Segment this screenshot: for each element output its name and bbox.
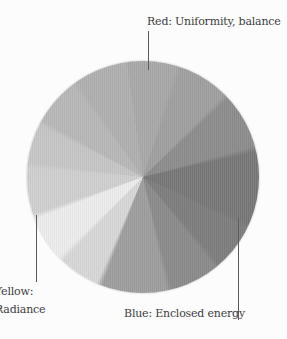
annotation-yellow-label: Yellow: Radiance [0, 283, 45, 319]
annotation-blue-leader-line [238, 218, 239, 320]
annotation-yellow-label-line2: Radiance [0, 301, 45, 319]
annotation-red-label: Red: Uniformity, balance [147, 14, 281, 29]
annotation-yellow-label-line1: Yellow: [0, 283, 45, 301]
annotation-red-leader-line [148, 31, 149, 70]
annotation-yellow-leader-line [36, 215, 37, 282]
color-wheel-pie [27, 61, 259, 293]
figure-color-wheel: Red: Uniformity, balance Yellow: Radianc… [0, 0, 287, 339]
annotation-blue-label: Blue: Enclosed energy [124, 306, 245, 321]
